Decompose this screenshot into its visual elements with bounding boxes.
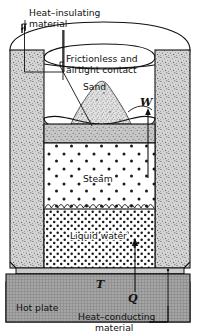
- heat-conducting-label-line1: Heat–conducting: [78, 311, 155, 322]
- frictionless-label-line2: airtight contact: [66, 64, 137, 75]
- temperature-label: T: [96, 278, 105, 291]
- heat-insulating-label-line1: Heat–insulating: [29, 7, 100, 18]
- frictionless-label-line1: Frictionless and: [66, 53, 138, 64]
- piston-block: [44, 124, 155, 143]
- heat-insulating-wall-right: [155, 50, 190, 268]
- steam-label: Steam: [83, 173, 113, 184]
- heat-insulating-wall-left: [10, 50, 44, 268]
- heat-insulating-label-line2: material: [29, 18, 67, 29]
- diagram-canvas: W Q T Heat–insulating material Frictionl…: [0, 0, 208, 332]
- thermodynamics-diagram: W Q T Heat–insulating material Frictionl…: [0, 0, 208, 332]
- work-label: W: [140, 96, 154, 109]
- heat-conducting-label-line2: material: [95, 322, 133, 332]
- sand-label: Sand: [83, 81, 106, 92]
- liquid-water-label: Liquid water: [70, 230, 127, 241]
- hot-plate-label: Hot plate: [16, 302, 59, 313]
- heat-label: Q: [128, 292, 138, 305]
